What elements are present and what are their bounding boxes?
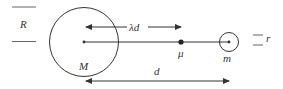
- small-mass-body: m: [220, 33, 239, 65]
- lambda-d-dimension: λd: [86, 21, 181, 33]
- radius-R-label: R: [19, 18, 27, 30]
- two-body-diagram: R M μ m r λd d: [0, 0, 283, 89]
- radius-r-indicator: r: [253, 32, 271, 45]
- radius-r-label: r: [266, 32, 271, 44]
- mu-label: μ: [177, 47, 184, 59]
- small-mass-center-dot: [228, 41, 231, 44]
- small-mass-label: m: [223, 52, 231, 64]
- radius-R-indicator: R: [12, 7, 36, 42]
- lambda-d-label: λd: [128, 21, 140, 33]
- d-label: d: [154, 65, 160, 77]
- mu-dot: [178, 39, 183, 44]
- large-mass-label: M: [78, 60, 89, 72]
